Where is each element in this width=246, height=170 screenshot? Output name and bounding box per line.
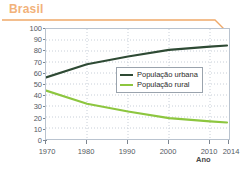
plot-area: População urbana População rural [45, 28, 230, 140]
legend-item-rural: População rural [120, 80, 198, 90]
legend-item-urban: População urbana [120, 70, 198, 80]
legend-swatch-rural-icon [120, 84, 133, 86]
legend-label-urban: População urbana [137, 71, 198, 79]
x-tick-label: 2000 [148, 147, 188, 156]
y-axis-tick-marks [0, 28, 50, 141]
chart-figure: Brasil População (em %) 100 90 80 70 60 … [0, 0, 246, 170]
legend-swatch-urban-icon [120, 74, 133, 76]
x-tick-mark [209, 140, 210, 144]
x-tick-label: 1970 [27, 147, 67, 156]
legend-label-rural: População rural [137, 81, 190, 89]
x-axis-title: Ano [196, 155, 211, 164]
title-block: Brasil [0, 0, 246, 24]
x-tick-mark [127, 140, 128, 144]
x-tick-label: 1990 [107, 147, 147, 156]
x-tick-mark [86, 140, 87, 144]
x-tick-mark [168, 140, 169, 144]
x-tick-mark [228, 140, 229, 144]
series-line-rural [46, 91, 227, 123]
legend: População urbana População rural [116, 67, 203, 93]
x-tick-label: 1980 [66, 147, 106, 156]
x-tick-label: 2014 [211, 147, 246, 156]
x-tick-mark [45, 140, 46, 144]
